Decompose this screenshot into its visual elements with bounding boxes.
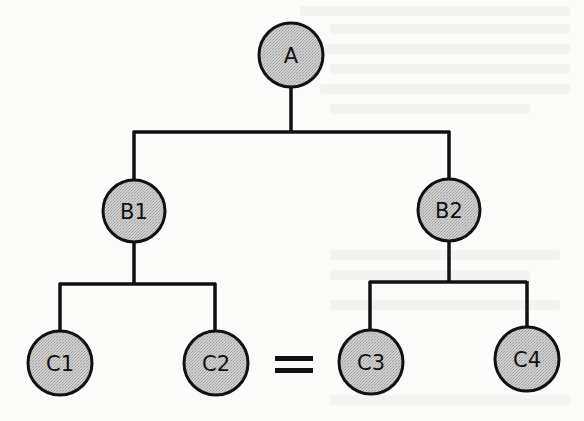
node-c4: C4 <box>495 327 559 391</box>
diagram-svg: AB1B2C1C2C3C4 <box>0 0 584 421</box>
node-c1: C1 <box>28 331 92 395</box>
tree-diagram: AB1B2C1C2C3C4 <box>0 0 584 421</box>
node-label: A <box>284 44 299 68</box>
node-label: B1 <box>120 200 148 224</box>
node-label: C2 <box>202 352 230 376</box>
node-b2: B2 <box>418 179 480 241</box>
node-c3: C3 <box>339 330 403 394</box>
node-label: C3 <box>357 351 385 375</box>
node-c2: C2 <box>184 331 248 395</box>
node-label: B2 <box>435 199 463 223</box>
node-label: C4 <box>513 348 541 372</box>
node-b1: B1 <box>103 180 165 242</box>
equals-sign <box>275 356 313 373</box>
node-label: C1 <box>46 352 74 376</box>
nodes: AB1B2C1C2C3C4 <box>28 23 559 395</box>
node-a: A <box>259 23 323 87</box>
